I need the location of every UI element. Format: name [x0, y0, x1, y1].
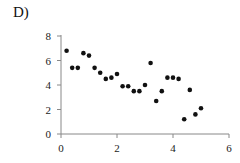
data-point	[104, 77, 109, 82]
data-points	[64, 48, 203, 121]
data-point	[87, 53, 92, 58]
data-point	[109, 75, 114, 80]
data-point	[81, 51, 86, 56]
scatter-chart: 024680246	[0, 0, 240, 163]
data-point	[70, 66, 75, 71]
data-point	[176, 77, 181, 82]
x-tick-label: 6	[226, 142, 232, 154]
data-point	[182, 117, 187, 122]
data-point	[188, 88, 193, 93]
data-point	[120, 84, 125, 89]
y-tick-label: 0	[46, 128, 52, 140]
data-point	[92, 66, 97, 71]
data-point	[132, 89, 137, 94]
data-point	[64, 48, 69, 53]
x-tick-label: 4	[170, 142, 176, 154]
data-point	[165, 75, 170, 80]
data-point	[137, 89, 142, 94]
data-point	[171, 75, 176, 80]
x-tick-label: 0	[58, 142, 64, 154]
y-tick-label: 4	[46, 79, 52, 91]
x-tick-label: 2	[114, 142, 120, 154]
data-point	[148, 61, 153, 66]
data-point	[154, 99, 159, 104]
data-point	[98, 70, 103, 75]
data-point	[126, 84, 131, 89]
y-tick-label: 6	[46, 55, 52, 67]
data-point	[76, 66, 81, 71]
data-point	[193, 112, 198, 117]
y-tick-label: 2	[46, 104, 52, 116]
data-point	[115, 72, 120, 77]
data-point	[143, 83, 148, 88]
data-point	[199, 106, 204, 111]
data-point	[160, 89, 165, 94]
y-tick-label: 8	[46, 30, 52, 42]
